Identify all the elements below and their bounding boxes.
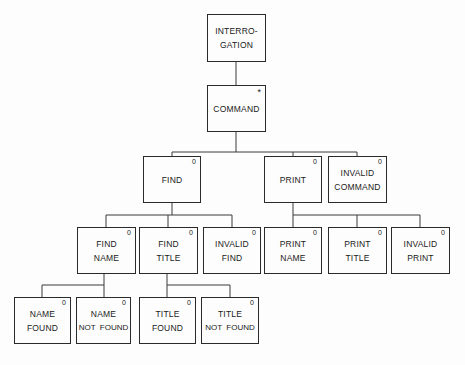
selection-circle-mark: 0	[192, 158, 196, 166]
node-label: FIND	[96, 237, 117, 251]
node-label: NOT FOUND	[205, 321, 255, 335]
node-label: NAME	[280, 251, 305, 265]
node-label: INTERRO-	[215, 24, 258, 38]
node-label: NOT FOUND	[79, 321, 129, 335]
node-label: PRINT	[280, 173, 307, 187]
node-label: NAME	[91, 307, 116, 321]
node-label: GATION	[220, 38, 253, 52]
node-name-not-found: 0 NAME NOT FOUND	[76, 297, 131, 344]
structure-chart: INTERRO- GATION * COMMAND 0 FIND 0 PRINT…	[0, 0, 465, 365]
node-command: * COMMAND	[207, 85, 266, 132]
node-find-name: 0 FIND NAME	[77, 227, 136, 274]
node-invalid-print: 0 INVALID PRINT	[391, 227, 450, 274]
node-label: FOUND	[152, 321, 183, 335]
node-label: NAME	[30, 307, 55, 321]
selection-circle-mark: 0	[378, 229, 382, 237]
node-invalid-command: 0 INVALID COMMAND	[328, 156, 387, 203]
node-name-found: 0 NAME FOUND	[14, 297, 71, 344]
selection-circle-mark: 0	[250, 299, 254, 307]
node-label: PRINT	[280, 237, 307, 251]
selection-circle-mark: 0	[62, 299, 66, 307]
node-label: FIND	[162, 173, 183, 187]
node-label: TITLE	[156, 251, 180, 265]
selection-circle-mark: 0	[313, 229, 317, 237]
node-label: COMMAND	[213, 102, 259, 116]
node-print-name: 0 PRINT NAME	[264, 227, 322, 274]
selection-asterisk-mark: *	[257, 88, 261, 96]
selection-circle-mark: 0	[252, 229, 256, 237]
selection-circle-mark: 0	[189, 229, 193, 237]
node-title-not-found: 0 TITLE NOT FOUND	[201, 297, 259, 344]
node-print-title: 0 PRINT TITLE	[328, 227, 387, 274]
node-invalid-find: 0 INVALID FIND	[203, 227, 261, 274]
node-print: 0 PRINT	[264, 156, 322, 203]
node-find-title: 0 FIND TITLE	[139, 227, 198, 274]
node-label: NAME	[94, 251, 119, 265]
selection-circle-mark: 0	[122, 299, 126, 307]
selection-circle-mark: 0	[378, 158, 382, 166]
node-label: TITLE	[218, 307, 242, 321]
node-label: PRINT	[407, 251, 434, 265]
node-label: FIND	[158, 237, 179, 251]
node-label: TITLE	[345, 251, 369, 265]
node-interrogation: INTERRO- GATION	[207, 14, 266, 62]
node-label: TITLE	[155, 307, 179, 321]
node-label: INVALID	[215, 237, 249, 251]
node-find: 0 FIND	[143, 156, 201, 203]
node-title-found: 0 TITLE FOUND	[139, 297, 196, 344]
node-label: COMMAND	[334, 180, 380, 194]
selection-circle-mark: 0	[127, 229, 131, 237]
node-label: PRINT	[344, 237, 371, 251]
node-label: FOUND	[27, 321, 58, 335]
node-label: INVALID	[404, 237, 438, 251]
selection-circle-mark: 0	[313, 158, 317, 166]
selection-circle-mark: 0	[441, 229, 445, 237]
node-label: INVALID	[341, 166, 375, 180]
node-label: FIND	[222, 251, 243, 265]
selection-circle-mark: 0	[187, 299, 191, 307]
